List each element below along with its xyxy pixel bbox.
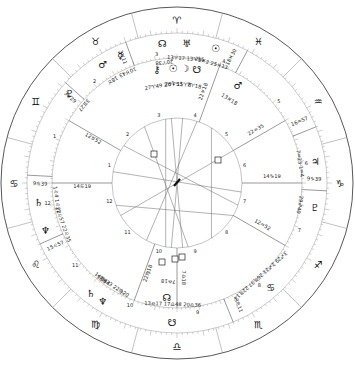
tick-outer — [100, 49, 103, 53]
tick-middle — [281, 112, 282, 113]
tick-outer — [285, 77, 287, 79]
tick-outer — [130, 326, 131, 328]
tick-outer — [88, 304, 89, 306]
tick-middle — [232, 295, 233, 297]
tick-middle — [285, 246, 288, 248]
tick-outer — [32, 229, 34, 230]
tick-outer — [68, 77, 70, 79]
inner-cusp-label: 12♒52 — [253, 217, 271, 231]
tick-outer — [304, 262, 306, 263]
house-number: 7 — [243, 198, 246, 204]
tick-outer — [325, 156, 330, 157]
tick-middle — [278, 108, 279, 109]
tick-outer — [252, 49, 255, 53]
tick-outer — [24, 156, 29, 157]
zodiac-aquarius-icon: ♒ — [314, 96, 323, 107]
mercury-icon: ☿ — [117, 50, 123, 61]
outer-house-number: 9 — [196, 309, 199, 315]
tick-middle — [106, 78, 107, 79]
tick-middle — [72, 253, 73, 254]
inner-cusp-label: 14♋19 — [73, 183, 91, 189]
tick-middle — [65, 123, 67, 124]
tick-outer — [75, 70, 76, 72]
tick-outer — [31, 224, 33, 225]
tick-outer — [238, 320, 239, 322]
tick-outer — [228, 324, 230, 329]
tick-outer — [261, 307, 262, 309]
outer-cusp-line — [293, 127, 316, 136]
tick-middle — [70, 116, 71, 117]
aspect-square-icon — [179, 254, 185, 260]
tick-outer — [314, 244, 316, 245]
tick-outer — [223, 326, 224, 328]
tick-outer — [233, 322, 234, 324]
sun-icon: ☉ — [169, 63, 178, 74]
tick-middle — [65, 246, 68, 248]
tick-outer — [31, 130, 36, 132]
tick-outer — [213, 35, 214, 37]
inner-cusp-label: 12♉52 — [84, 131, 102, 145]
tick-middle — [59, 136, 61, 137]
outer-house-number: 1 — [53, 133, 56, 139]
tick-middle — [293, 230, 295, 231]
house-number: 4 — [194, 112, 197, 118]
tick-outer — [316, 239, 318, 240]
inner-cusp-label: 7♎18 — [181, 271, 187, 286]
tick-outer — [320, 136, 322, 137]
tick-outer — [36, 126, 38, 127]
pluto-icon: ♇ — [65, 88, 74, 99]
tick-outer — [243, 46, 244, 48]
tick-outer — [213, 329, 214, 331]
tick-outer — [43, 112, 45, 113]
tick-outer — [58, 83, 62, 86]
tick-outer — [321, 224, 323, 225]
tick-outer — [54, 271, 56, 272]
tick-outer — [120, 322, 121, 324]
tick-outer — [150, 30, 151, 35]
tick-outer — [96, 54, 97, 56]
aspect-square-icon — [215, 157, 221, 163]
house-number: 2 — [126, 131, 129, 137]
tick-outer — [281, 291, 283, 293]
pluto-2-icon: ♇ — [310, 202, 319, 213]
tick-outer — [120, 42, 121, 44]
tick-middle — [130, 65, 131, 67]
mars-inner-icon: ♂ — [233, 80, 242, 91]
sun-venus-icon: ☉ — [211, 43, 220, 54]
sign-divider — [216, 13, 223, 38]
tick-middle — [276, 105, 277, 106]
tick-outer — [292, 279, 296, 282]
moon-icon: ☽ — [181, 63, 190, 74]
outer-cusp-line — [236, 51, 248, 73]
tick-outer — [312, 116, 314, 117]
tick-outer — [77, 298, 80, 302]
tick-outer — [247, 315, 248, 317]
tick-middle — [59, 230, 61, 231]
tick-middle — [155, 306, 156, 310]
tick-outer — [115, 320, 116, 322]
tick-outer — [54, 94, 56, 95]
tick-outer — [247, 49, 248, 51]
inner-cusp-label: 22♍18 — [141, 264, 153, 283]
tick-middle — [113, 71, 115, 74]
sign-divider — [53, 59, 71, 77]
zodiac-libra-icon: ♎ — [173, 341, 182, 352]
tick-outer — [68, 287, 70, 289]
tick-outer — [243, 318, 244, 320]
tick-middle — [56, 222, 58, 223]
tick-outer — [269, 301, 270, 303]
tick-outer — [57, 89, 59, 90]
tick-outer — [40, 116, 42, 117]
outer-cusp-label: 9♋39 — [33, 180, 48, 187]
house-number: 9 — [194, 248, 197, 254]
tick-middle — [61, 131, 63, 132]
tick-middle — [130, 299, 131, 301]
tick-middle — [56, 144, 58, 145]
mars-position: 18♉ — [106, 75, 119, 86]
tick-outer — [64, 283, 66, 284]
zodiac-virgo-icon: ♍ — [91, 319, 100, 330]
uranus-icon: ♅ — [182, 38, 191, 49]
outer-house-number: 12 — [44, 200, 50, 206]
tick-outer — [43, 258, 47, 261]
tick-middle — [78, 263, 81, 266]
